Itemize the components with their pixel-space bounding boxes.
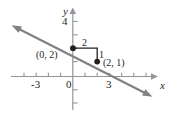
x-tick-label-0: 0 bbox=[66, 79, 72, 90]
coordinate-plane-figure: y x 4 -3 0 3 (0, 2) (2, 1) 2 1 bbox=[0, 0, 177, 116]
line-arrow-lower-right bbox=[142, 89, 153, 97]
x-tick-label-neg3: -3 bbox=[31, 79, 40, 90]
x-axis-label: x bbox=[160, 80, 165, 91]
point-label-0-2: (0, 2) bbox=[36, 50, 58, 60]
x-tick-label-3: 3 bbox=[106, 79, 112, 90]
x-axis-arrow bbox=[151, 73, 158, 80]
y-axis-arrow bbox=[70, 8, 77, 15]
slope-step-path bbox=[73, 48, 97, 61]
line-arrow-upper-left bbox=[12, 25, 23, 33]
point-0-2 bbox=[70, 45, 76, 51]
run-label: 2 bbox=[82, 38, 87, 48]
rise-label: 1 bbox=[99, 50, 104, 60]
y-tick-label-4: 4 bbox=[62, 16, 68, 27]
point-label-2-1: (2, 1) bbox=[103, 58, 125, 68]
y-axis-ticks bbox=[73, 21, 78, 103]
graph-canvas bbox=[0, 0, 177, 116]
slope-triangle bbox=[73, 48, 97, 61]
